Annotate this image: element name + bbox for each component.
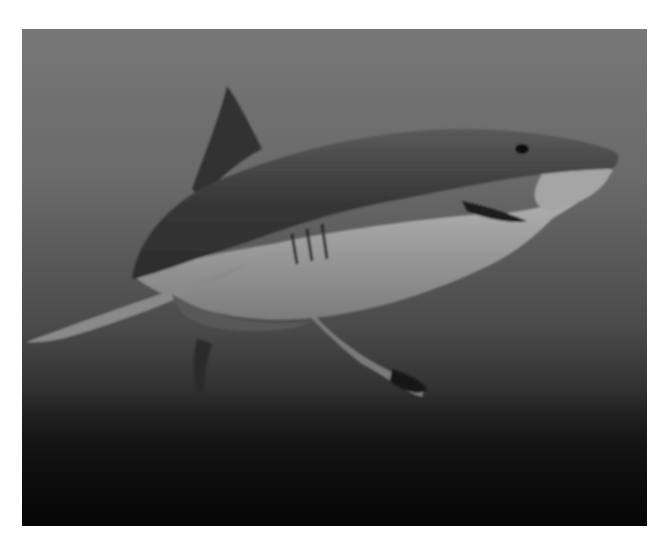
shark-photo xyxy=(22,29,647,526)
seabed xyxy=(22,389,647,526)
shark xyxy=(26,86,618,397)
shark-illustration xyxy=(22,29,647,526)
eye xyxy=(515,144,529,154)
